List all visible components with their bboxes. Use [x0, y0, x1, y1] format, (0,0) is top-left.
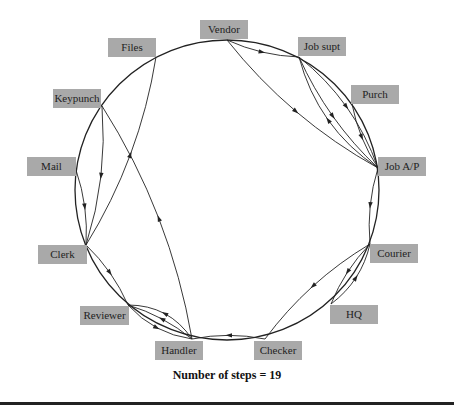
- arrowhead-icon: [161, 310, 169, 317]
- arrowhead-icon: [158, 315, 166, 322]
- edge-courier-to-checker: [265, 244, 370, 339]
- arrowhead-icon: [343, 103, 350, 111]
- arrowhead-icon: [358, 133, 365, 141]
- arrowhead-icon: [325, 116, 332, 124]
- arrowhead-icon: [156, 214, 162, 222]
- arrowhead-icon: [98, 173, 103, 180]
- node-checker: Checker: [254, 341, 302, 360]
- edge-jobsupt-to-jobap: [299, 57, 378, 168]
- arrowhead-icon: [127, 151, 133, 159]
- arrowhead-icon: [106, 269, 113, 277]
- node-keypunch: Keypunch: [53, 89, 101, 108]
- edge-vendor-to-jobsupt: [227, 40, 299, 57]
- arrowhead-icon: [153, 324, 161, 331]
- edge-jobap-to-jobsupt: [299, 57, 378, 168]
- edge-clerk-to-reviewer: [86, 245, 128, 305]
- node-courier: Courier: [370, 244, 418, 263]
- arrowhead-icon: [329, 112, 336, 120]
- arrowhead-icon: [344, 268, 351, 276]
- node-files: Files: [108, 38, 156, 57]
- node-vendor: Vendor: [200, 20, 248, 39]
- node-mail: Mail: [27, 157, 76, 176]
- node-handler: Handler: [155, 341, 203, 360]
- caption: Number of steps = 19: [0, 368, 454, 383]
- edge-hq-to-courier: [331, 244, 370, 304]
- edge-jobsupt-to-jobap: [299, 57, 378, 168]
- node-clerk: Clerk: [38, 245, 87, 264]
- arrowhead-icon: [368, 202, 373, 209]
- edges: [76, 40, 378, 339]
- edge-courier-to-hq: [331, 244, 370, 304]
- process-circle: [75, 40, 379, 340]
- flow-diagram: [0, 0, 454, 405]
- arrowhead-icon: [226, 333, 233, 337]
- node-reviewer: Reviewer: [80, 306, 129, 325]
- edge-handler-to-keypunch: [102, 106, 192, 339]
- arrowhead-icon: [352, 274, 359, 282]
- node-jobap: Job A/P: [378, 157, 426, 176]
- arrowhead-icon: [258, 49, 265, 55]
- node-hq: HQ: [330, 305, 378, 324]
- edge-clerk-to-files: [86, 57, 156, 245]
- node-purch: Purch: [351, 85, 399, 104]
- node-jobsupt: Job supt: [298, 37, 346, 56]
